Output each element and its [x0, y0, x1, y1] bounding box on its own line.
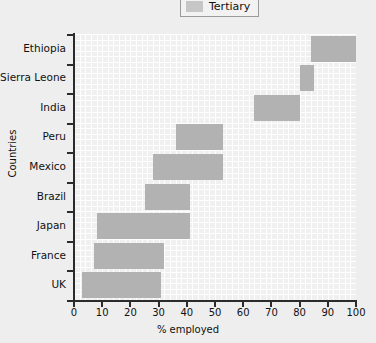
- y-axis-line: [73, 33, 75, 301]
- x-axis-label-70: 70: [256, 307, 286, 318]
- chart-canvas: Tertiary EthiopiaSierra LeoneIndiaPeruMe…: [0, 0, 376, 343]
- y-axis-tick: [67, 182, 74, 184]
- x-axis-label-80: 80: [285, 307, 315, 318]
- x-axis-label-50: 50: [200, 307, 230, 318]
- y-axis-tick: [67, 241, 74, 243]
- x-axis-label-10: 10: [87, 307, 117, 318]
- y-axis-label-japan: Japan: [0, 220, 66, 231]
- x-axis-title: % employed: [0, 324, 376, 335]
- y-axis-tick: [67, 211, 74, 213]
- y-axis-tick: [67, 152, 74, 154]
- bar-peru: [176, 124, 224, 150]
- x-axis-label-90: 90: [313, 307, 343, 318]
- bar-mexico: [153, 154, 224, 180]
- y-axis-label-india: India: [0, 102, 66, 113]
- bar-ethiopia: [311, 36, 356, 62]
- x-axis-label-100: 100: [341, 307, 371, 318]
- y-axis-label-sierra-leone: Sierra Leone: [0, 72, 66, 83]
- chart-legend: Tertiary: [180, 0, 259, 17]
- y-axis-label-france: France: [0, 250, 66, 261]
- y-axis-label-ethiopia: Ethiopia: [0, 43, 66, 54]
- legend-color-swatch-icon: [186, 1, 203, 12]
- bar-japan: [97, 213, 190, 239]
- bar-brazil: [145, 184, 190, 210]
- y-axis-label-uk: UK: [0, 279, 66, 290]
- x-axis-label-20: 20: [115, 307, 145, 318]
- x-axis-label-0: 0: [59, 307, 89, 318]
- x-axis-label-60: 60: [228, 307, 258, 318]
- x-axis-label-30: 30: [144, 307, 174, 318]
- y-axis-title: Countries: [7, 114, 18, 194]
- plot-area: [74, 34, 356, 300]
- y-axis-tick: [67, 64, 74, 66]
- y-axis-tick: [67, 34, 74, 36]
- y-axis-tick: [67, 123, 74, 125]
- bar-india: [254, 95, 299, 121]
- bar-sierra-leone: [300, 65, 314, 91]
- legend-item-label: Tertiary: [209, 1, 250, 12]
- bar-uk: [82, 272, 161, 298]
- x-axis-label-40: 40: [172, 307, 202, 318]
- y-axis-tick: [67, 270, 74, 272]
- bar-france: [94, 243, 165, 269]
- y-axis-tick: [67, 93, 74, 95]
